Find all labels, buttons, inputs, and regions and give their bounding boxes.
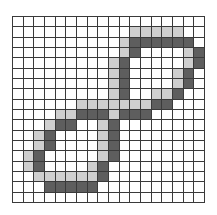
grid-cell-empty <box>141 172 152 182</box>
grid-cell-empty <box>98 89 109 99</box>
grid-cell-empty <box>24 110 35 120</box>
grid-cell-empty <box>130 193 141 203</box>
grid-cell-light <box>173 79 184 89</box>
grid-cell-empty <box>141 79 152 89</box>
grid-cell-empty <box>194 120 205 130</box>
grid-cell-empty <box>130 182 141 192</box>
grid-cell-light <box>152 89 163 99</box>
grid-cell-empty <box>34 79 45 89</box>
grid-cell-empty <box>34 17 45 27</box>
grid-cell-empty <box>152 58 163 68</box>
grid-cell-empty <box>66 100 77 110</box>
grid-cell-empty <box>56 162 67 172</box>
grid-cell-empty <box>173 193 184 203</box>
grid-cell-empty <box>120 141 131 151</box>
grid-cell-dark <box>194 58 205 68</box>
grid-cell-empty <box>77 151 88 161</box>
grid-cell-empty <box>66 79 77 89</box>
grid-cell-empty <box>77 27 88 37</box>
grid-cell-empty <box>109 182 120 192</box>
grid-cell-dark <box>184 69 195 79</box>
grid-cell-light <box>141 100 152 110</box>
grid-cell-empty <box>152 172 163 182</box>
grid-cell-empty <box>24 69 35 79</box>
grid-cell-light <box>66 110 77 120</box>
grid-cell-empty <box>24 79 35 89</box>
grid-cell-empty <box>66 151 77 161</box>
grid-cell-empty <box>88 38 99 48</box>
grid-cell-empty <box>173 162 184 172</box>
grid-cell-empty <box>120 17 131 27</box>
grid-cell-light <box>184 48 195 58</box>
grid-cell-empty <box>173 141 184 151</box>
grid-cell-empty <box>109 172 120 182</box>
grid-cell-empty <box>194 100 205 110</box>
grid-cell-empty <box>45 38 56 48</box>
grid-cell-empty <box>34 69 45 79</box>
grid-cell-empty <box>77 17 88 27</box>
grid-cell-empty <box>98 48 109 58</box>
grid-cell-empty <box>45 151 56 161</box>
grid-cell-dark <box>184 38 195 48</box>
grid-cell-empty <box>184 172 195 182</box>
grid-cell-dark <box>120 69 131 79</box>
grid-cell-dark <box>152 38 163 48</box>
grid-cell-empty <box>56 151 67 161</box>
grid-cell-dark <box>45 182 56 192</box>
grid-cell-empty <box>194 79 205 89</box>
grid-cell-empty <box>109 17 120 27</box>
grid-cell-empty <box>77 120 88 130</box>
grid-cell-empty <box>66 193 77 203</box>
grid-cell-empty <box>141 58 152 68</box>
grid-cell-dark <box>45 131 56 141</box>
grid-cell-empty <box>34 120 45 130</box>
grid-cell-empty <box>152 151 163 161</box>
grid-cell-empty <box>56 89 67 99</box>
grid-cell-dark <box>130 38 141 48</box>
grid-cell-light <box>98 100 109 110</box>
grid-cell-empty <box>173 182 184 192</box>
grid-cell-dark <box>120 79 131 89</box>
grid-cell-empty <box>88 58 99 68</box>
grid-cell-empty <box>66 131 77 141</box>
grid-cell-empty <box>173 151 184 161</box>
grid-cell-empty <box>56 17 67 27</box>
grid-cell-empty <box>88 131 99 141</box>
grid-cell-empty <box>194 182 205 192</box>
grid-cell-light <box>109 58 120 68</box>
grid-cell-empty <box>120 162 131 172</box>
grid-cell-empty <box>24 58 35 68</box>
grid-cell-empty <box>77 141 88 151</box>
grid-cell-empty <box>141 17 152 27</box>
grid-cell-light <box>88 100 99 110</box>
grid-cell-empty <box>34 58 45 68</box>
grid-cell-empty <box>77 58 88 68</box>
grid-cell-empty <box>77 48 88 58</box>
grid-cell-light <box>98 131 109 141</box>
grid-cell-empty <box>66 27 77 37</box>
grid-cell-dark <box>109 151 120 161</box>
grid-cell-empty <box>34 27 45 37</box>
grid-cell-dark <box>77 110 88 120</box>
grid-cell-light <box>120 38 131 48</box>
grid-cell-empty <box>184 120 195 130</box>
grid-cell-light <box>98 120 109 130</box>
grid-cell-empty <box>45 27 56 37</box>
grid-cell-light <box>88 172 99 182</box>
grid-cell-empty <box>24 131 35 141</box>
grid-cell-light <box>162 89 173 99</box>
grid-cell-empty <box>24 38 35 48</box>
grid-cell-empty <box>130 141 141 151</box>
grid-cell-empty <box>194 151 205 161</box>
grid-cell-empty <box>66 162 77 172</box>
grid-cell-light <box>77 172 88 182</box>
grid-cell-empty <box>130 17 141 27</box>
grid-cell-empty <box>194 172 205 182</box>
grid-cell-empty <box>194 131 205 141</box>
grid-cell-empty <box>45 162 56 172</box>
grid-cell-empty <box>173 110 184 120</box>
grid-cell-empty <box>194 89 205 99</box>
grid-cell-empty <box>173 172 184 182</box>
grid-cell-empty <box>162 79 173 89</box>
grid-cell-light <box>88 162 99 172</box>
